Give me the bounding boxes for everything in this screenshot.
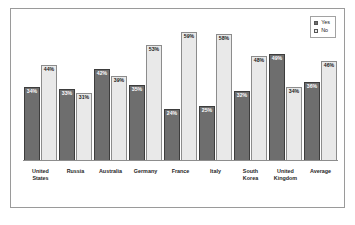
x-axis-tick-labels: United StatesRussiaAustraliaGermanyFranc…: [23, 163, 338, 197]
bar-value-label: 34%: [25, 89, 39, 94]
bar-yes[interactable]: 24%: [164, 19, 180, 161]
bar-rect[interactable]: 59%: [181, 32, 197, 161]
x-tick-label: Italy: [198, 163, 233, 197]
bar-no[interactable]: 53%: [146, 19, 162, 161]
x-axis-line: [23, 160, 338, 161]
bar-value-label: 31%: [77, 95, 91, 100]
bar-no[interactable]: 48%: [251, 19, 267, 161]
bar-group: 33%31%: [58, 19, 93, 161]
legend-swatch-icon: [314, 21, 318, 25]
bar-value-label: 59%: [182, 34, 196, 39]
bar-rect[interactable]: 32%: [234, 91, 250, 161]
bar-value-label: 58%: [217, 36, 231, 41]
bar-rect[interactable]: 35%: [129, 85, 145, 161]
bar-value-label: 33%: [60, 91, 74, 96]
bar-no[interactable]: 39%: [111, 19, 127, 161]
bar-no[interactable]: 44%: [41, 19, 57, 161]
bar-group: 32%48%: [233, 19, 268, 161]
bar-rect[interactable]: 48%: [251, 56, 267, 161]
bar-rect[interactable]: 58%: [216, 34, 232, 161]
bar-group: 35%53%: [128, 19, 163, 161]
bar-yes[interactable]: 36%: [304, 19, 320, 161]
bar-value-label: 36%: [305, 84, 319, 89]
bar-no[interactable]: 46%: [321, 19, 337, 161]
bar-rect[interactable]: 33%: [59, 89, 75, 161]
x-tick-label: Average: [303, 163, 338, 197]
bar-value-label: 34%: [287, 89, 301, 94]
bar-group: 24%59%: [163, 19, 198, 161]
bar-value-label: 48%: [252, 58, 266, 63]
chart-legend: YesNo: [310, 16, 336, 38]
bar-group: 36%46%: [303, 19, 338, 161]
bar-value-label: 49%: [270, 56, 284, 61]
bar-group: 25%58%: [198, 19, 233, 161]
x-tick-label: France: [163, 163, 198, 197]
bar-groups-container: 34%44%33%31%42%39%35%53%24%59%25%58%32%4…: [23, 19, 338, 161]
bar-rect[interactable]: 34%: [286, 87, 302, 161]
x-tick-label: Australia: [93, 163, 128, 197]
x-tick-label: United States: [23, 163, 58, 197]
bar-yes[interactable]: 42%: [94, 19, 110, 161]
legend-item-no[interactable]: No: [314, 28, 330, 33]
bar-value-label: 42%: [95, 71, 109, 76]
bar-group: 42%39%: [93, 19, 128, 161]
bar-rect[interactable]: 31%: [76, 93, 92, 161]
bar-yes[interactable]: 34%: [24, 19, 40, 161]
bar-value-label: 53%: [147, 47, 161, 52]
x-tick-label: United Kingdom: [268, 163, 303, 197]
bar-yes[interactable]: 49%: [269, 19, 285, 161]
x-tick-label: Germany: [128, 163, 163, 197]
bar-yes[interactable]: 25%: [199, 19, 215, 161]
bar-no[interactable]: 58%: [216, 19, 232, 161]
bar-no[interactable]: 59%: [181, 19, 197, 161]
bar-no[interactable]: 34%: [286, 19, 302, 161]
bar-value-label: 32%: [235, 93, 249, 98]
bar-rect[interactable]: 34%: [24, 87, 40, 161]
bar-rect[interactable]: 24%: [164, 109, 180, 161]
bar-value-label: 24%: [165, 111, 179, 116]
bar-rect[interactable]: 49%: [269, 54, 285, 161]
bar-group: 34%44%: [23, 19, 58, 161]
bar-value-label: 39%: [112, 78, 126, 83]
legend-label: No: [321, 28, 328, 33]
bar-value-label: 25%: [200, 108, 214, 113]
chart-plot-frame: 34%44%33%31%42%39%35%53%24%59%25%58%32%4…: [10, 8, 345, 208]
chart-plot-area: 34%44%33%31%42%39%35%53%24%59%25%58%32%4…: [23, 19, 338, 161]
bar-value-label: 46%: [322, 63, 336, 68]
bar-rect[interactable]: 44%: [41, 65, 57, 161]
bar-rect[interactable]: 46%: [321, 61, 337, 161]
bar-yes[interactable]: 33%: [59, 19, 75, 161]
bar-value-label: 44%: [42, 67, 56, 72]
bar-rect[interactable]: 53%: [146, 45, 162, 161]
bar-yes[interactable]: 32%: [234, 19, 250, 161]
bar-value-label: 35%: [130, 87, 144, 92]
bar-rect[interactable]: 25%: [199, 106, 215, 161]
legend-item-yes[interactable]: Yes: [314, 20, 330, 25]
bar-rect[interactable]: 42%: [94, 69, 110, 161]
x-tick-label: South Korea: [233, 163, 268, 197]
bar-group: 49%34%: [268, 19, 303, 161]
bar-no[interactable]: 31%: [76, 19, 92, 161]
legend-swatch-icon: [314, 29, 318, 33]
bar-chart-figure: 34%44%33%31%42%39%35%53%24%59%25%58%32%4…: [0, 0, 355, 225]
x-tick-label: Russia: [58, 163, 93, 197]
bar-yes[interactable]: 35%: [129, 19, 145, 161]
bar-rect[interactable]: 36%: [304, 82, 320, 161]
bar-rect[interactable]: 39%: [111, 76, 127, 161]
legend-label: Yes: [321, 20, 330, 25]
